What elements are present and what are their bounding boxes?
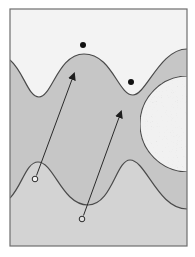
arrow-2-tail-circle [79,216,85,222]
dot-1 [80,42,86,48]
arrow-1-tail-circle [32,176,38,182]
dot-2 [128,79,134,85]
diagram-canvas [0,0,195,257]
